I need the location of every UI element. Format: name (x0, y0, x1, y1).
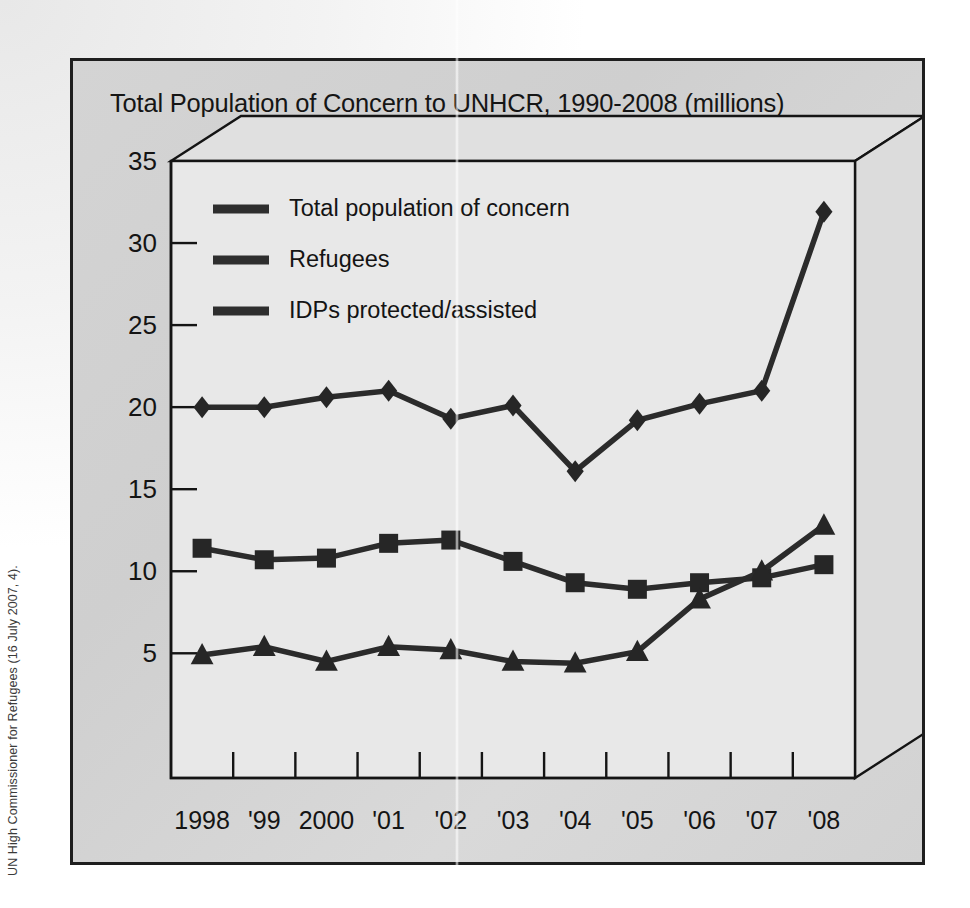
plot-box-top-face (171, 116, 922, 161)
x-axis-tick-label: '03 (497, 806, 530, 834)
y-axis-tick-label: 25 (128, 310, 157, 340)
y-axis-tick-label: 15 (128, 474, 157, 504)
data-point-square (504, 552, 523, 571)
x-axis-tick-label: 2000 (299, 806, 355, 834)
y-axis-tick-label: 30 (128, 228, 157, 258)
data-point-square (379, 534, 398, 553)
data-point-square (255, 550, 274, 569)
chart-figure-frame: Total Population of Concern to UNHCR, 19… (70, 58, 925, 865)
x-axis-tick-label: '06 (683, 806, 716, 834)
x-axis-tick-label: 1998 (174, 806, 230, 834)
y-axis-tick-label: 20 (128, 392, 157, 422)
y-axis-tick-label: 5 (143, 638, 157, 668)
x-axis-tick-label: '99 (248, 806, 281, 834)
y-axis-tick-label: 35 (128, 146, 157, 176)
data-point-square (441, 531, 460, 550)
legend-swatch-1 (213, 205, 269, 214)
data-point-square (814, 555, 833, 574)
legend-swatch-2 (213, 256, 269, 265)
plot-box-right-face (855, 116, 922, 778)
plot-box-front-face (171, 161, 855, 778)
legend-label-3: IDPs protected/assisted (289, 297, 537, 323)
data-point-square (193, 539, 212, 558)
x-axis-tick-label: '07 (745, 806, 778, 834)
x-axis-tick-label: '01 (372, 806, 405, 834)
x-axis-tick-label: '05 (621, 806, 654, 834)
legend-label-2: Refugees (289, 246, 390, 272)
x-axis-tick-label: '04 (559, 806, 592, 834)
data-point-square (628, 580, 647, 599)
line-chart-plot: 51015202530351998'992000'01'02'03'04'05'… (73, 61, 922, 862)
x-axis-tick-label: '02 (435, 806, 468, 834)
y-axis-tick-label: 10 (128, 556, 157, 586)
x-axis-tick-label: '08 (808, 806, 841, 834)
data-point-square (566, 573, 585, 592)
source-credit: UN High Commissioner for Refugees (16 Ju… (6, 506, 20, 876)
legend-label-1: Total population of concern (289, 195, 570, 221)
data-point-square (317, 549, 336, 568)
legend-swatch-3 (213, 307, 269, 316)
